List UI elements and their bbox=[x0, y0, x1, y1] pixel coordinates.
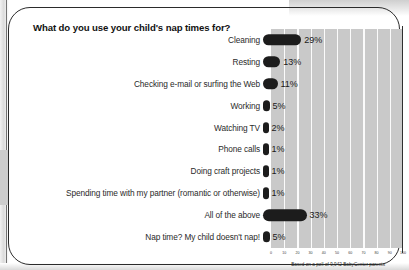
bar bbox=[263, 78, 278, 90]
bar-row: Working5% bbox=[9, 95, 401, 117]
category-label: Resting bbox=[233, 57, 260, 67]
x-tick-label: 10 bbox=[282, 251, 286, 255]
x-tick-label: 50 bbox=[335, 251, 339, 255]
bar-row: Spending time with my partner (romantic … bbox=[9, 182, 401, 204]
bar-value-label: 5% bbox=[273, 232, 286, 242]
bar bbox=[263, 231, 270, 243]
axis-right-rule bbox=[402, 26, 403, 253]
x-tick-label: 60 bbox=[348, 251, 352, 255]
category-label: Phone calls bbox=[218, 144, 260, 154]
category-label: Nap time? My child doesn't nap! bbox=[145, 232, 260, 242]
bar-row: Doing craft projects1% bbox=[9, 160, 401, 182]
bar-value-label: 33% bbox=[310, 210, 328, 220]
x-tick-label: 90 bbox=[388, 251, 392, 255]
bar-value-label: 1% bbox=[272, 188, 285, 198]
bar bbox=[263, 122, 269, 134]
bar-rows: Cleaning29%Resting13%Checking e-mail or … bbox=[9, 29, 401, 248]
x-tick-label: 100 bbox=[400, 251, 406, 255]
bar-value-label: 2% bbox=[272, 123, 285, 133]
category-label: Working bbox=[230, 101, 260, 111]
x-tick-label: 70 bbox=[361, 251, 365, 255]
bar bbox=[263, 56, 280, 68]
bar bbox=[263, 100, 270, 112]
bar-value-label: 1% bbox=[272, 144, 285, 154]
bar bbox=[263, 34, 301, 46]
bar-value-label: 11% bbox=[281, 79, 298, 89]
x-axis-ticks: 0102030405060708090100 bbox=[271, 251, 403, 259]
x-tick-label: 40 bbox=[322, 251, 326, 255]
bar-row: Nap time? My child doesn't nap!5% bbox=[9, 226, 401, 248]
chart-footnote: Based on a poll of 9,942 BabyCenter pare… bbox=[291, 262, 385, 267]
bar bbox=[263, 166, 269, 178]
chart-card: What do you use your child's nap times f… bbox=[8, 7, 400, 265]
bar bbox=[263, 144, 269, 156]
bar-row: Resting13% bbox=[9, 51, 401, 73]
category-label: Cleaning bbox=[228, 35, 260, 45]
bar-row: Watching TV2% bbox=[9, 117, 401, 139]
bar bbox=[263, 209, 307, 221]
x-tick-label: 0 bbox=[270, 251, 272, 255]
bar-value-label: 13% bbox=[283, 57, 301, 67]
bar bbox=[263, 187, 269, 199]
category-label: Watching TV bbox=[214, 123, 260, 133]
bar-row: Phone calls1% bbox=[9, 138, 401, 160]
bar-value-label: 29% bbox=[304, 35, 322, 45]
bar-row: All of the above33% bbox=[9, 204, 401, 226]
bar-row: Checking e-mail or surfing the Web11% bbox=[9, 73, 401, 95]
x-tick-label: 30 bbox=[309, 251, 313, 255]
bar-row: Cleaning29% bbox=[9, 29, 401, 51]
category-label: Doing craft projects bbox=[191, 166, 260, 176]
bar-value-label: 5% bbox=[273, 101, 286, 111]
category-label: Checking e-mail or surfing the Web bbox=[134, 79, 260, 89]
x-tick-label: 80 bbox=[375, 251, 379, 255]
x-tick-label: 20 bbox=[295, 251, 299, 255]
category-label: Spending time with my partner (romantic … bbox=[66, 188, 260, 198]
category-label: All of the above bbox=[204, 210, 260, 220]
bar-value-label: 1% bbox=[272, 166, 285, 176]
